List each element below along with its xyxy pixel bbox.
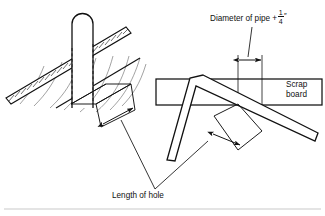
fraction-numerator: 1 [278, 9, 284, 17]
vertical-pipe [72, 14, 93, 109]
pipe-hole-diagram: Diameter of pipe +14″ Scrap board Length… [0, 0, 325, 216]
left-figure-roof-deck-with-pipe [6, 14, 146, 128]
fraction-denominator: 4 [278, 17, 284, 24]
scrap-board-label-line2: board [286, 90, 307, 99]
diameter-of-pipe-label: Diameter of pipe +14″ [210, 9, 286, 25]
length-of-hole-label: Length of hole [112, 192, 164, 201]
hatched-roof-deck [6, 27, 131, 104]
diameter-leader-line [248, 27, 252, 57]
inch-mark: ″ [284, 11, 286, 20]
quarter-inch-fraction: 14 [278, 9, 284, 25]
scrap-board-label: Scrap board [286, 80, 320, 101]
length-of-hole-leader-lines [121, 120, 208, 189]
diagram-canvas [0, 0, 325, 216]
length-leader-left [121, 120, 155, 189]
scrap-board-label-line1: Scrap [286, 80, 307, 89]
left-length-dimension-arrow [103, 108, 133, 124]
diameter-label-text: Diameter of pipe + [210, 14, 277, 23]
right-length-dimension-arrow [213, 134, 240, 145]
length-leader-right [155, 141, 208, 189]
